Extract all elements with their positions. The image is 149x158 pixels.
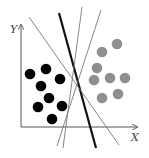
class-b-point — [97, 93, 108, 104]
y-axis-label: Y — [10, 23, 19, 36]
svm-diagram: X Y — [0, 0, 149, 158]
class-b-point — [105, 73, 116, 84]
class-b-points — [89, 39, 131, 104]
class-b-point — [97, 47, 108, 58]
class-a-point — [47, 114, 58, 125]
class-b-point — [89, 75, 100, 86]
class-b-point — [113, 89, 124, 100]
x-axis-label: X — [130, 131, 140, 144]
class-a-point — [36, 81, 47, 92]
class-a-point — [57, 101, 68, 112]
class-a-point — [55, 74, 66, 85]
class-a-points — [25, 64, 68, 125]
class-b-point — [92, 63, 103, 74]
class-a-point — [25, 69, 36, 80]
class-a-point — [44, 93, 55, 104]
class-a-point — [33, 102, 44, 113]
class-b-point — [120, 73, 131, 84]
class-a-point — [41, 64, 52, 75]
class-b-point — [112, 39, 123, 50]
